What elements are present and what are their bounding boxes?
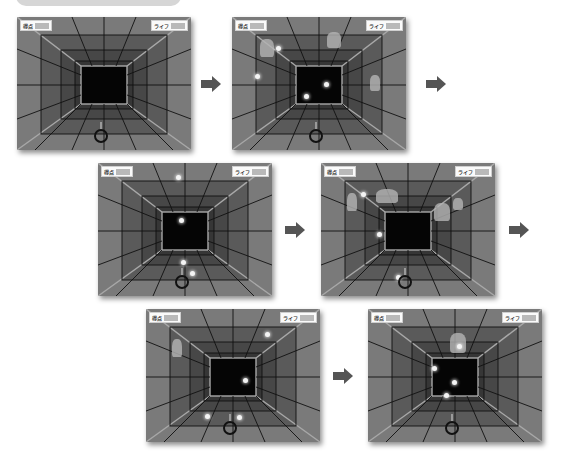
energy-orb (452, 380, 457, 385)
life-display: ライフ (455, 166, 492, 177)
game-screen-step-2: 得点ライフ (232, 17, 406, 150)
energy-orb (361, 192, 366, 197)
game-screen-step-3: 得点ライフ (98, 163, 272, 296)
score-label: 得点 (23, 22, 33, 29)
score-label: 得点 (104, 168, 114, 175)
life-value (522, 315, 536, 321)
energy-orb (377, 232, 382, 237)
score-display: 得点 (20, 20, 52, 31)
life-label: ライフ (458, 168, 473, 175)
energy-orb (179, 218, 184, 223)
score-display: 得点 (324, 166, 356, 177)
life-label: ライフ (154, 22, 169, 29)
game-screen-step-4: 得点ライフ (321, 163, 495, 296)
energy-orb (304, 94, 309, 99)
energy-orb (444, 393, 449, 398)
life-value (171, 23, 185, 29)
arrow-right-icon (333, 368, 353, 384)
life-value (386, 23, 400, 29)
player-ring-icon (445, 421, 459, 435)
game-screen-step-6: 得点ライフ (368, 309, 542, 442)
life-value (475, 169, 489, 175)
score-label: 得点 (238, 22, 248, 29)
score-value (164, 315, 178, 321)
energy-orb (457, 344, 462, 349)
energy-orb (276, 46, 281, 51)
game-screen-step-5: 得点ライフ (146, 309, 320, 442)
score-display: 得点 (149, 312, 181, 323)
header-banner (16, 0, 181, 6)
player-ring-icon (94, 129, 108, 143)
score-value (250, 23, 264, 29)
player-ring-icon (309, 129, 323, 143)
game-screen-step-1: 得点ライフ (17, 17, 191, 150)
ghost-top-creature-icon (327, 32, 341, 48)
figure-left-creature-icon (347, 193, 357, 211)
arrow-right-icon (285, 222, 305, 238)
score-display: 得点 (101, 166, 133, 177)
energy-orb (432, 366, 437, 371)
arrow-right-icon (509, 222, 529, 238)
player-ring-icon (175, 275, 189, 289)
life-value (252, 169, 266, 175)
life-display: ライフ (280, 312, 317, 323)
life-label: ライフ (283, 314, 298, 321)
player-ring-icon (398, 275, 412, 289)
bird-left-creature-icon (260, 39, 274, 57)
life-display: ライフ (151, 20, 188, 31)
score-value (386, 315, 400, 321)
life-display: ライフ (502, 312, 539, 323)
dog-top-creature-icon (450, 333, 466, 353)
life-display: ライフ (232, 166, 269, 177)
energy-orb (176, 175, 181, 180)
score-label: 得点 (374, 314, 384, 321)
figure-right-creature-icon (370, 75, 380, 91)
energy-orb (181, 260, 186, 265)
score-value (35, 23, 49, 29)
energy-orb (243, 378, 248, 383)
energy-orb (255, 74, 260, 79)
figure-left-creature-icon (172, 339, 182, 357)
energy-orb (324, 82, 329, 87)
life-label: ライフ (369, 22, 384, 29)
score-label: 得点 (152, 314, 162, 321)
swan-right-creature-icon (434, 203, 450, 221)
arrow-right-icon (426, 76, 446, 92)
score-display: 得点 (371, 312, 403, 323)
score-display: 得点 (235, 20, 267, 31)
life-value (300, 315, 314, 321)
life-label: ライフ (235, 168, 250, 175)
energy-orb (265, 332, 270, 337)
energy-orb (205, 414, 210, 419)
energy-orb (237, 415, 242, 420)
score-value (116, 169, 130, 175)
life-display: ライフ (366, 20, 403, 31)
sparkle-right-creature-icon (453, 198, 463, 210)
life-label: ライフ (505, 314, 520, 321)
player-ring-icon (223, 421, 237, 435)
score-label: 得点 (327, 168, 337, 175)
energy-orb (190, 271, 195, 276)
arrow-right-icon (201, 76, 221, 92)
score-value (339, 169, 353, 175)
bat-top-creature-icon (376, 189, 398, 203)
